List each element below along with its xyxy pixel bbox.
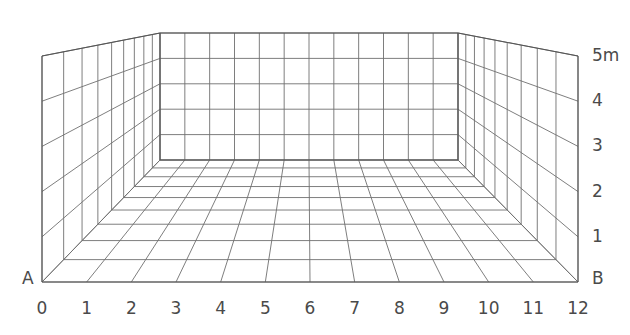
grid-canvas [0, 0, 630, 335]
x-axis-tick-label-8: 8 [394, 300, 405, 317]
y-axis-tick-label-4: 4 [592, 92, 603, 109]
x-axis-tick-label-11: 11 [523, 300, 545, 317]
corner-label-a: A [22, 270, 34, 287]
corner-label-b: B [592, 270, 604, 287]
perspective-grid-diagram: 0123456789101112 5m4321 A B [0, 0, 630, 335]
x-axis-tick-label-6: 6 [305, 300, 316, 317]
x-axis-tick-label-4: 4 [215, 300, 226, 317]
x-axis-tick-label-10: 10 [478, 300, 500, 317]
left-wall-grid [42, 33, 160, 282]
x-axis-tick-label-0: 0 [37, 300, 48, 317]
x-axis-tick-label-3: 3 [171, 300, 182, 317]
x-axis-tick-label-7: 7 [349, 300, 360, 317]
y-axis-tick-label-2: 2 [592, 183, 603, 200]
x-axis-tick-label-9: 9 [439, 300, 450, 317]
x-axis-tick-label-2: 2 [126, 300, 137, 317]
y-axis-tick-label-3: 3 [592, 137, 603, 154]
y-axis-tick-label-1: 1 [592, 228, 603, 245]
x-axis-tick-label-5: 5 [260, 300, 271, 317]
floor-grid [42, 160, 578, 282]
x-axis-tick-label-12: 12 [567, 300, 589, 317]
right-wall-grid [458, 33, 578, 282]
back-wall-grid [160, 33, 458, 160]
y-axis-tick-label-5m: 5m [592, 47, 619, 64]
x-axis-tick-label-1: 1 [81, 300, 92, 317]
